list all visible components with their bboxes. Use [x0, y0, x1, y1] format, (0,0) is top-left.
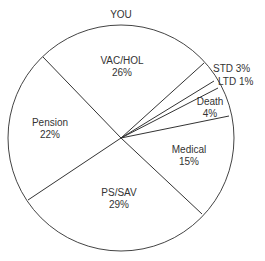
label-std: STD 3%	[213, 63, 250, 75]
label-pension-name: Pension	[32, 117, 68, 129]
label-medical-pct: 15%	[172, 156, 206, 168]
label-death: Death 4%	[197, 96, 224, 120]
label-pssav-pct: 29%	[101, 199, 136, 211]
label-pension-pct: 22%	[32, 129, 68, 141]
label-medical: Medical 15%	[172, 144, 206, 168]
chart-title: YOU	[110, 9, 132, 21]
label-vachol-pct: 26%	[100, 67, 143, 79]
label-vachol: VAC/HOL 26%	[100, 55, 143, 79]
label-pension: Pension 22%	[32, 117, 68, 141]
label-ltd: LTD 1%	[218, 76, 253, 88]
label-vachol-name: VAC/HOL	[100, 55, 143, 67]
label-pssav-name: PS/SAV	[101, 187, 136, 199]
label-death-pct: 4%	[197, 108, 224, 120]
label-death-name: Death	[197, 96, 224, 108]
label-medical-name: Medical	[172, 144, 206, 156]
label-pssav: PS/SAV 29%	[101, 187, 136, 211]
